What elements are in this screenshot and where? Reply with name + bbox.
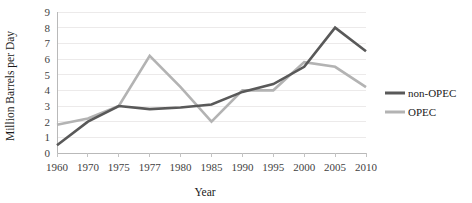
x-axis-group [57, 153, 366, 157]
y-tick-label: 8 [45, 22, 51, 34]
x-tick-label: 1980 [170, 161, 193, 173]
x-tick-label: 1985 [201, 161, 224, 173]
x-tick-label: 1977 [139, 161, 162, 173]
y-tick-label: 6 [45, 53, 51, 65]
y-tick-label: 0 [45, 147, 51, 159]
legend-label: non-OPEC [408, 87, 456, 99]
line-chart: 0123456789 19601970197519771980198519901… [0, 0, 472, 203]
x-axis-title-group: Year [194, 186, 215, 198]
x-tick-label: 1990 [231, 161, 254, 173]
x-tick-label: 1995 [262, 161, 285, 173]
y-tick-label: 1 [45, 131, 51, 143]
series-line-non-opec [57, 28, 366, 146]
x-tick-label: 1960 [46, 161, 69, 173]
x-tick-label: 2010 [355, 161, 378, 173]
y-tick-label: 2 [45, 116, 51, 128]
x-tick-label: 2000 [293, 161, 316, 173]
x-tick-label: 1975 [108, 161, 131, 173]
chart-container: 0123456789 19601970197519771980198519901… [0, 0, 472, 203]
legend: non-OPECOPEC [385, 87, 456, 118]
x-tick-labels-group: 1960197019751977198019851990199520002005… [46, 161, 378, 173]
y-tick-label: 3 [45, 100, 51, 112]
legend-label: OPEC [408, 106, 436, 118]
y-tick-label: 7 [45, 37, 51, 49]
y-tick-label: 9 [45, 6, 51, 18]
series-group [57, 28, 366, 146]
x-tick-label: 2005 [324, 161, 347, 173]
y-tick-label: 5 [45, 69, 51, 81]
gridlines-group [57, 12, 366, 153]
y-axis-title-group: Million Barrels per Day [4, 31, 17, 141]
y-axis-title: Million Barrels per Day [4, 31, 17, 141]
x-tick-label: 1970 [77, 161, 100, 173]
y-tick-labels-group: 0123456789 [45, 6, 51, 159]
x-axis-title: Year [194, 186, 215, 198]
y-tick-label: 4 [45, 84, 51, 96]
